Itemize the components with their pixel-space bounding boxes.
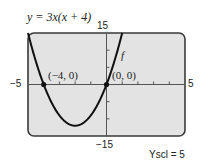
curve-label: f (121, 49, 124, 61)
yscl-label: Yscl = 5 (149, 149, 185, 160)
intercept-point (104, 82, 109, 87)
xmin-label: −5 (10, 78, 21, 89)
point-label-neg4: (−4, 0) (48, 69, 78, 81)
point-label-origin: (0, 0) (112, 69, 136, 81)
ymax-label: 15 (97, 20, 108, 31)
intercept-point (41, 82, 46, 87)
xmax-label: 5 (188, 78, 194, 89)
ymin-label: −15 (96, 139, 113, 150)
